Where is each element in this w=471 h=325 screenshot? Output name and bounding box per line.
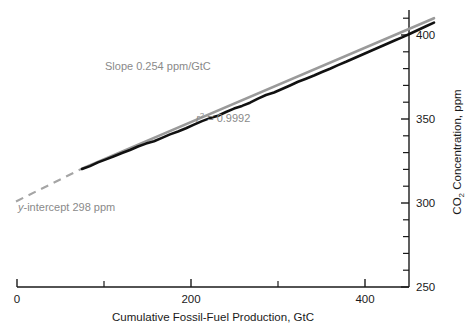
y-tick-label-250: 250 bbox=[416, 281, 435, 293]
y-tick-label-300: 300 bbox=[416, 197, 435, 209]
x-tick-label-0: 0 bbox=[14, 293, 20, 305]
axes-group bbox=[17, 10, 409, 287]
annotation-r-squared: r2 = 0.9992 bbox=[196, 111, 250, 124]
x-axis-ticks bbox=[17, 279, 365, 287]
series-extrapolation-dashed bbox=[16, 169, 82, 202]
y-axis-title-post: Concentration, ppm bbox=[451, 89, 463, 193]
x-axis-tick-labels: 0 200 400 bbox=[14, 293, 375, 305]
x-tick-label-200: 200 bbox=[181, 293, 200, 305]
series-group bbox=[16, 18, 434, 201]
y-axis-ticks bbox=[401, 18, 409, 287]
chart-svg: 0 200 400 250 300 3 bbox=[0, 0, 471, 325]
annotation-r-squared-value: = 0.9992 bbox=[204, 112, 250, 124]
x-tick-label-400: 400 bbox=[355, 293, 374, 305]
annotation-y-intercept-value: -intercept 298 ppm bbox=[24, 201, 116, 213]
series-regression-fit bbox=[82, 18, 434, 168]
series-observed-co2 bbox=[82, 23, 434, 169]
y-axis-tick-labels: 250 300 350 400 bbox=[416, 29, 435, 293]
annotation-y-intercept: y-intercept 298 ppm bbox=[17, 201, 115, 213]
annotations-group: Slope 0.254 ppm/GtC r2 = 0.9992 y-interc… bbox=[17, 60, 250, 213]
chart-figure: 0 200 400 250 300 3 bbox=[0, 0, 471, 325]
y-axis-title: CO2 Concentration, ppm bbox=[451, 89, 466, 214]
x-axis-title: Cumulative Fossil-Fuel Production, GtC bbox=[112, 311, 314, 323]
y-axis-title-pre: CO bbox=[451, 197, 463, 214]
y-tick-label-350: 350 bbox=[416, 113, 435, 125]
annotation-slope: Slope 0.254 ppm/GtC bbox=[105, 60, 211, 72]
